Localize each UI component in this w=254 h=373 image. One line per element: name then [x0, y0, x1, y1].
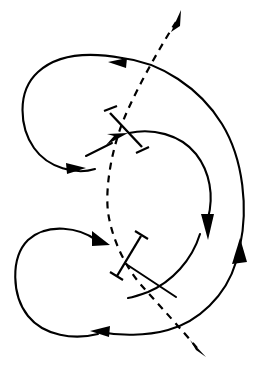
upper-barbell-cap-bottom	[136, 147, 149, 153]
inner-right-arc-arrowhead-down	[201, 214, 214, 240]
outer-right-arc	[100, 58, 247, 335]
dashed-trajectory-path	[107, 22, 197, 348]
inner-right-arc-path	[129, 131, 211, 218]
outer-right-arc-lower-path	[100, 262, 236, 335]
lower-left-loop-path	[15, 229, 98, 337]
upper-barbell-inflow-tail	[86, 143, 112, 156]
lower-left-loop-arrowhead-downright	[92, 231, 110, 246]
upper-left-loop-path	[23, 55, 123, 171]
lower-barbell-shaft	[117, 236, 141, 276]
dashed-trajectory-arrowhead-upper	[171, 10, 181, 32]
lower-barbell-cap-top	[135, 231, 148, 239]
flow-diagram	[0, 0, 254, 373]
lower-barbell-cap-bottom	[110, 272, 123, 280]
upper-left-loop-arrowhead-left	[108, 58, 127, 68]
upper-left-loop-arrowhead-right	[66, 163, 86, 174]
outer-right-arc-arrowhead-up	[232, 238, 247, 264]
upper-barbell-inflow-arrowhead	[106, 133, 128, 145]
upper-barbell-shaft	[110, 113, 142, 147]
lower-left-loop	[15, 229, 110, 337]
dashed-trajectory-arrowhead-lower	[190, 340, 206, 357]
diagram-canvas	[0, 0, 254, 373]
upper-barbell-cap-top	[104, 106, 117, 111]
